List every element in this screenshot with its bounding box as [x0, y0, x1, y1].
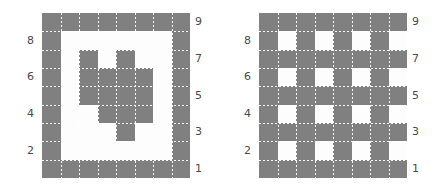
- axis-tick-label: 9: [195, 16, 202, 27]
- grid-cell: [153, 141, 172, 159]
- grid-cell: [352, 105, 371, 123]
- grid-cell: [315, 105, 334, 123]
- grid-cell: [79, 123, 98, 141]
- grid-cell: [296, 105, 315, 123]
- grid-cell: [352, 123, 371, 141]
- grid-cell: [42, 105, 61, 123]
- grid-cell: [135, 105, 154, 123]
- grid-cell: [333, 86, 352, 104]
- axis-tick-label: 2: [244, 145, 251, 156]
- grid-cell: [333, 123, 352, 141]
- grid-cell: [79, 160, 98, 178]
- grid-cell: [61, 68, 80, 86]
- grid-cell: [116, 13, 135, 31]
- grid-cell: [389, 160, 408, 178]
- axis-tick-label: 3: [195, 126, 202, 137]
- axis-tick-label: 7: [195, 53, 202, 64]
- grid-cell: [278, 123, 297, 141]
- grid-cell: [79, 105, 98, 123]
- axis-tick-label: 8: [27, 35, 34, 46]
- grid-cell: [352, 141, 371, 159]
- grid-cell: [333, 160, 352, 178]
- grid-cell: [278, 50, 297, 68]
- grid-cell: [135, 160, 154, 178]
- grid-cell: [135, 50, 154, 68]
- grid-cell: [98, 160, 117, 178]
- grid-cell: [172, 160, 191, 178]
- grid-cell: [278, 86, 297, 104]
- grid-cell: [153, 13, 172, 31]
- grid-cell: [61, 50, 80, 68]
- grid-cell: [315, 31, 334, 49]
- grid-cell: [370, 68, 389, 86]
- grid-cell: [296, 13, 315, 31]
- right-grid-area: [259, 13, 407, 178]
- grid-cell: [153, 50, 172, 68]
- grid-cell: [296, 68, 315, 86]
- grid-cell: [315, 13, 334, 31]
- axis-tick-label: 2: [27, 145, 34, 156]
- grid-cell: [116, 86, 135, 104]
- grid-cell: [296, 123, 315, 141]
- grid-cell: [352, 13, 371, 31]
- grid-cell: [79, 141, 98, 159]
- grid-cell: [42, 160, 61, 178]
- axis-tick-label: 1: [195, 163, 202, 174]
- grid-cell: [389, 141, 408, 159]
- grid-cell: [116, 50, 135, 68]
- grid-cell: [278, 13, 297, 31]
- axis-tick-label: 4: [27, 108, 34, 119]
- grid-cell: [259, 105, 278, 123]
- grid-cell: [370, 13, 389, 31]
- grid-cell: [135, 13, 154, 31]
- grid-cell: [315, 68, 334, 86]
- figure-two-grid-panels: 864297531 864297531: [0, 0, 435, 193]
- grid-cell: [370, 141, 389, 159]
- grid-cell: [333, 68, 352, 86]
- grid-cell: [370, 86, 389, 104]
- grid-cell: [296, 86, 315, 104]
- grid-cell: [333, 31, 352, 49]
- left-grid: [42, 13, 190, 178]
- grid-cell: [259, 86, 278, 104]
- grid-cell: [135, 68, 154, 86]
- grid-cell: [42, 123, 61, 141]
- grid-cell: [135, 86, 154, 104]
- grid-cell: [370, 50, 389, 68]
- axis-tick-label: 8: [244, 35, 251, 46]
- grid-cell: [61, 160, 80, 178]
- grid-cell: [135, 31, 154, 49]
- grid-cell: [79, 50, 98, 68]
- grid-cell: [98, 31, 117, 49]
- grid-cell: [135, 141, 154, 159]
- grid-cell: [79, 68, 98, 86]
- grid-cell: [61, 31, 80, 49]
- axis-tick-label: 6: [244, 71, 251, 82]
- grid-cell: [172, 13, 191, 31]
- grid-cell: [278, 160, 297, 178]
- grid-cell: [61, 13, 80, 31]
- grid-cell: [42, 68, 61, 86]
- grid-cell: [79, 31, 98, 49]
- grid-cell: [259, 141, 278, 159]
- grid-cell: [116, 123, 135, 141]
- grid-cell: [389, 123, 408, 141]
- right-grid: [259, 13, 407, 178]
- grid-cell: [172, 68, 191, 86]
- grid-cell: [61, 86, 80, 104]
- grid-cell: [389, 86, 408, 104]
- axis-tick-label: 6: [27, 71, 34, 82]
- grid-cell: [278, 105, 297, 123]
- grid-cell: [259, 123, 278, 141]
- grid-cell: [315, 50, 334, 68]
- left-grid-area: [42, 13, 190, 178]
- grid-cell: [98, 123, 117, 141]
- grid-cell: [370, 105, 389, 123]
- grid-cell: [98, 50, 117, 68]
- grid-cell: [389, 13, 408, 31]
- grid-cell: [172, 31, 191, 49]
- grid-cell: [135, 123, 154, 141]
- grid-cell: [116, 105, 135, 123]
- grid-cell: [42, 13, 61, 31]
- grid-cell: [153, 105, 172, 123]
